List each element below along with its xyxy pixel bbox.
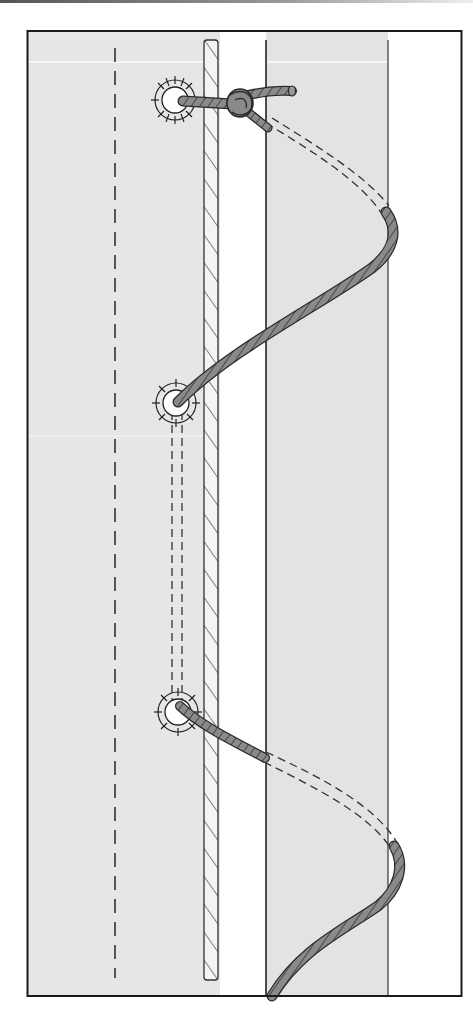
lacing-diagram bbox=[0, 0, 473, 1018]
left-sail-panel bbox=[28, 32, 220, 996]
gap-strip bbox=[220, 32, 266, 996]
bolt-rope bbox=[204, 40, 218, 980]
right-spar-panel bbox=[266, 32, 388, 996]
